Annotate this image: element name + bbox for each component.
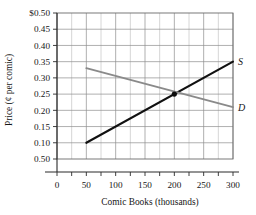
x-tick-marks: [57, 172, 233, 176]
y-tick-label: 0.10: [34, 138, 50, 148]
y-tick-marks: [53, 13, 57, 159]
equilibrium-point: [172, 92, 177, 97]
x-tick-label: 200: [167, 180, 181, 190]
y-tick-label: 0.40: [34, 41, 50, 51]
x-tick-label: 0: [55, 180, 60, 190]
x-tick-labels: 050100150200250300: [55, 180, 241, 190]
curve-label-s: S: [238, 56, 243, 67]
y-tick-label: 0.50: [34, 154, 50, 164]
y-tick-label: 0.45: [34, 24, 50, 34]
chart-canvas: SD $0.500.450.400.350.300.250.200.150.10…: [0, 0, 256, 215]
x-axis-title-text: Comic Books (thousands): [101, 197, 198, 208]
curve-label-d: D: [237, 102, 246, 113]
y-tick-label: 0.35: [34, 57, 50, 67]
x-axis-title: Comic Books (thousands): [101, 197, 198, 208]
y-tick-labels: $0.500.450.400.350.300.250.200.150.100.5…: [29, 8, 50, 164]
y-axis-title: Price (¢ per comic): [4, 54, 15, 126]
y-tick-label: 0.25: [34, 89, 50, 99]
x-tick-label: 250: [197, 180, 211, 190]
x-tick-label: 150: [138, 180, 152, 190]
equilibrium-marker-layer: [172, 92, 177, 97]
y-axis-title-text: Price (¢ per comic): [4, 54, 15, 126]
y-tick-label: 0.30: [34, 73, 50, 83]
x-tick-label: 100: [109, 180, 123, 190]
y-tick-label: 0.15: [34, 122, 50, 132]
supply-demand-chart-figure: SD $0.500.450.400.350.300.250.200.150.10…: [0, 0, 256, 215]
x-tick-label: 50: [82, 180, 92, 190]
curve-labels-layer: SD: [237, 56, 246, 112]
x-tick-label: 300: [226, 180, 240, 190]
y-tick-label: 0.20: [34, 106, 50, 116]
y-tick-label: $0.50: [29, 8, 50, 18]
